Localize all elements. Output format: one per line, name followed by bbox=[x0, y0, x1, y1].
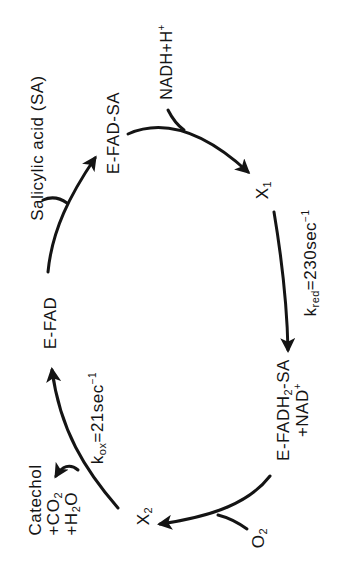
kox-value: =21sec bbox=[88, 384, 107, 442]
nad-coproduct-line: +NAD+ bbox=[293, 359, 312, 461]
e-fad-text: E-FAD bbox=[41, 297, 60, 350]
e-fadh2-text: E-FADH bbox=[274, 396, 293, 461]
arrow-efadh2sa-to-x2 bbox=[160, 476, 270, 529]
h2o-subscript: 2 bbox=[70, 506, 82, 513]
kox-k: k bbox=[88, 455, 107, 464]
co2-text: +CO bbox=[44, 499, 63, 536]
node-e-fad-sa: E-FAD-SA bbox=[104, 92, 123, 174]
sa-suffix: -SA bbox=[274, 359, 293, 389]
x1-subscript: 1 bbox=[261, 181, 273, 188]
kred-k: k bbox=[301, 308, 320, 317]
nadh-label: NADH+H+ bbox=[157, 24, 176, 100]
o2-text: O bbox=[249, 534, 268, 548]
kox-exponent: −1 bbox=[87, 372, 98, 384]
rate-kox-label: kox=21sec−1 bbox=[88, 372, 107, 464]
nad-charge: + bbox=[292, 383, 303, 389]
kox-subscript: ox bbox=[96, 443, 108, 456]
salicylic-acid-label: Salicylic acid (SA) bbox=[28, 75, 47, 221]
h2o-o-text: O bbox=[62, 492, 81, 506]
nad-text: +NAD bbox=[293, 389, 312, 437]
products-label: Catechol +CO2 +H2O bbox=[27, 464, 81, 535]
nadh-text: NADH+H bbox=[158, 31, 175, 100]
kred-value: =230sec bbox=[301, 222, 320, 290]
e-fad-sa-text: E-FAD-SA bbox=[104, 92, 123, 174]
arrow-efadsa-to-x1 bbox=[128, 110, 248, 172]
kred-exponent: −1 bbox=[300, 209, 311, 221]
x1-text: X bbox=[253, 187, 272, 199]
h2o-h-text: +H bbox=[62, 512, 81, 535]
catechol-text: Catechol bbox=[27, 464, 45, 535]
o2-subscript: 2 bbox=[257, 528, 269, 535]
e-fadh2-sa-line: E-FADH2-SA bbox=[274, 359, 293, 461]
node-e-fad: E-FAD bbox=[41, 297, 60, 350]
salicylic-acid-text: Salicylic acid (SA) bbox=[28, 75, 47, 221]
x2-text: X bbox=[134, 513, 153, 525]
h2o-line: +H2O bbox=[63, 464, 81, 535]
kred-subscript: red bbox=[309, 290, 321, 307]
arrow-x1-to-efadh2sa bbox=[274, 212, 288, 350]
catalytic-cycle-diagram: Salicylic acid (SA) E-FAD-SA NADH+H+ X1 … bbox=[0, 0, 348, 587]
nadh-charge: + bbox=[156, 24, 167, 30]
oxygen-label: O2 bbox=[249, 528, 268, 548]
rate-kred-label: kred=230sec−1 bbox=[301, 209, 320, 316]
x2-subscript: 2 bbox=[142, 507, 154, 514]
node-x1: X1 bbox=[253, 181, 272, 199]
node-x2: X2 bbox=[134, 507, 153, 525]
arrow-efad-to-efadsa bbox=[43, 158, 95, 272]
co2-line: +CO2 bbox=[45, 464, 63, 535]
node-e-fadh2-sa: E-FADH2-SA +NAD+ bbox=[274, 359, 312, 461]
